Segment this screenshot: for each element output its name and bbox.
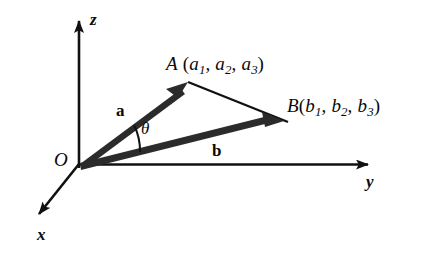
vector-diagram-figure: z y x O a b θ A (a1, a2, a3) B(b1, b2, b… [0, 0, 425, 253]
point-A-separator-2: , [232, 53, 242, 74]
angle-theta-label: θ [141, 120, 149, 137]
segment-AB [188, 82, 288, 122]
vector-a-label: a [116, 102, 125, 119]
point-A-close-paren: ) [258, 53, 265, 74]
point-B-letter: B [287, 95, 299, 116]
x-axis [39, 164, 79, 214]
point-A-open-paren: ( [178, 53, 189, 74]
point-B-separator-2: , [348, 95, 358, 116]
x-axis-label: x [37, 226, 46, 243]
point-A-component-1: a [189, 53, 199, 74]
point-B-separator-1: , [322, 95, 332, 116]
point-A-component-2: a [215, 53, 225, 74]
vector-b-label: b [212, 142, 221, 159]
z-axis-label: z [90, 11, 97, 28]
point-B-component-1: b [305, 95, 315, 116]
point-A-letter: A [166, 53, 178, 74]
vector-b [80, 112, 284, 170]
point-B-close-paren: ) [374, 95, 381, 116]
y-axis-label: y [366, 173, 374, 190]
diagram-canvas [0, 0, 425, 253]
origin-label: O [54, 150, 68, 169]
point-A-label: A (a1, a2, a3) [166, 54, 264, 77]
point-A-separator-1: , [205, 53, 215, 74]
point-B-component-3: b [357, 95, 367, 116]
point-B-component-2: b [331, 95, 341, 116]
point-B-label: B(b1, b2, b3) [287, 96, 380, 119]
point-A-component-3: a [241, 53, 251, 74]
